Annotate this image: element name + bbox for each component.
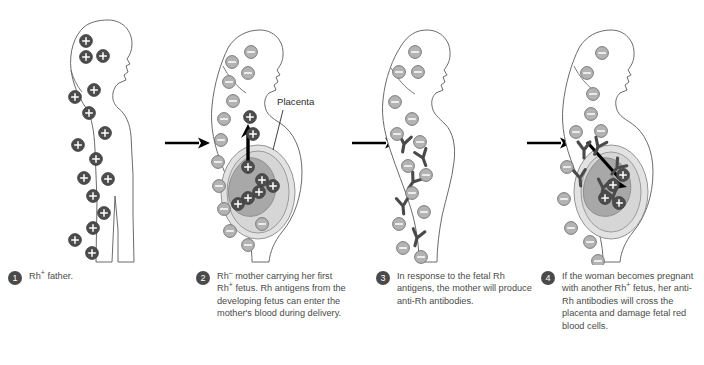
mother-cell-negative-9 [584, 236, 597, 249]
father-cell-positive-13 [87, 222, 100, 235]
mother-cell-negative-2 [242, 67, 255, 80]
mother-cell-negative-0 [409, 46, 422, 59]
step-badge-2: 2 [196, 271, 210, 285]
placenta-label: Placenta [277, 96, 314, 107]
mother-cell-negative-7 [402, 160, 415, 173]
mother-cell-negative-10 [213, 180, 226, 193]
father-cell-positive-9 [78, 172, 91, 185]
father-cell-positive-3 [88, 84, 101, 97]
father-cell-positive-2 [80, 51, 93, 64]
panel-2-mother-with-first-fetus: Placenta [190, 0, 355, 265]
father-cell-positive-7 [72, 139, 85, 152]
fetal-cell-positive-0 [617, 169, 630, 182]
mother-cell-negative-5 [595, 125, 608, 138]
father-cell-positive-12 [98, 207, 111, 220]
fetal-cell-positive-5 [232, 198, 245, 211]
mother-cell-negative-1 [226, 56, 239, 69]
panel-1-illustration [0, 0, 190, 265]
mother-cell-negative-3 [585, 108, 598, 121]
mother-cell-negative-13 [242, 239, 255, 252]
father-cell-positive-4 [69, 91, 82, 104]
mother-cell-negative-12 [224, 225, 237, 238]
mother-cell-positive-8 [247, 128, 260, 141]
mother-cell-negative-5 [218, 113, 231, 126]
panel-3-mother-producing-antibodies [355, 0, 535, 265]
mother-cell-negative-1 [393, 66, 406, 79]
caption-text-3: In response to the fetal Rh antigens, th… [397, 270, 534, 307]
mother-cell-negative-1 [581, 67, 594, 80]
mother-cell-negative-2 [412, 66, 425, 79]
caption-step-2: 2 Rh– mother carrying her first Rh+ fetu… [196, 270, 348, 320]
mother-cell-negative-0 [245, 46, 258, 59]
panel-1-father [0, 0, 190, 265]
mother-cell-positive-7 [244, 111, 257, 124]
father-cell-positive-5 [83, 107, 96, 120]
panel-4-illustration [535, 0, 704, 265]
father-cell-positive-11 [87, 190, 100, 203]
mother-cell-negative-13 [415, 251, 428, 264]
caption-text-1: Rh+ father. [29, 270, 73, 282]
father-cell-positive-14 [69, 234, 82, 247]
mother-cell-negative-10 [592, 255, 605, 265]
mother-cell-negative-6 [414, 136, 427, 149]
caption-step-3: 3 In response to the fetal Rh antigens, … [376, 270, 534, 307]
mother-cell-negative-9 [212, 156, 225, 169]
mother-cell-negative-4 [570, 126, 583, 139]
caption-text-2: Rh– mother carrying her first Rh+ fetus.… [217, 270, 348, 320]
mother-cell-negative-2 [587, 88, 600, 101]
step-badge-1: 1 [8, 271, 22, 285]
step-badge-3: 3 [376, 271, 390, 285]
mother-cell-negative-6 [561, 161, 574, 174]
mother-cell-negative-5 [391, 128, 404, 141]
fetal-cell-positive-0 [242, 161, 255, 174]
father-cell-positive-15 [86, 247, 99, 260]
mother-cell-negative-3 [223, 76, 236, 89]
mother-cell-negative-7 [558, 193, 571, 206]
father-cell-positive-1 [97, 50, 110, 63]
caption-text-4: If the woman becomes pregnant with anoth… [562, 270, 701, 332]
father-cell-positive-8 [90, 153, 103, 166]
panel-2-illustration [190, 0, 355, 265]
panel-4-antibodies-attack-second-fetus [535, 0, 704, 265]
father-cell-positive-10 [102, 173, 115, 186]
step-badge-4: 4 [541, 271, 555, 285]
mother-cell-negative-11 [218, 203, 231, 216]
caption-step-4: 4 If the woman becomes pregnant with ano… [541, 270, 701, 332]
mother-cell-negative-3 [389, 96, 402, 109]
mother-cell-negative-9 [406, 187, 419, 200]
mother-cell-negative-8 [420, 169, 433, 182]
fetal-cell-positive-2 [267, 180, 280, 193]
mother-cell-negative-0 [596, 47, 609, 60]
mother-cell-negative-4 [406, 113, 419, 126]
father-cell-positive-0 [80, 35, 93, 48]
mother-cell-negative-6 [215, 134, 228, 147]
mother-cell-negative-11 [393, 218, 406, 231]
father-cell-positive-6 [99, 127, 112, 140]
caption-step-1: 1 Rh+ father. [8, 270, 183, 285]
mother-cell-negative-12 [397, 242, 410, 255]
mother-cell-negative-4 [227, 95, 240, 108]
antibody-3 [396, 198, 409, 215]
mother-cell-negative-14 [256, 218, 269, 231]
mother-cell-negative-8 [565, 222, 578, 235]
panel-3-illustration [355, 0, 535, 265]
mother-cell-negative-10 [418, 206, 431, 219]
rh-incompatibility-diagram: Placenta [0, 0, 704, 365]
